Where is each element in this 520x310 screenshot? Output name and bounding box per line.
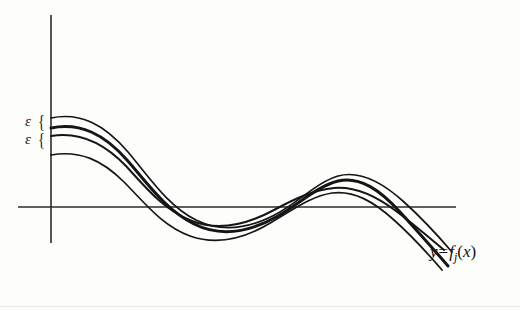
curve-limit-thick bbox=[51, 126, 448, 266]
curve-outer-lower bbox=[51, 154, 442, 270]
scan-artifact bbox=[0, 306, 520, 307]
curve-inner bbox=[51, 135, 444, 250]
function-curve-label: y=fj(x) bbox=[430, 242, 476, 265]
figure-canvas: ε { ε { y=fj(x) bbox=[0, 0, 520, 310]
label-close-paren: ) bbox=[470, 242, 476, 261]
label-equals: = bbox=[438, 242, 450, 261]
epsilon-lower-brace-icon: { bbox=[38, 130, 45, 149]
epsilon-upper-label: ε bbox=[25, 114, 31, 129]
epsilon-lower-label: ε bbox=[25, 132, 31, 147]
curve-outer-upper bbox=[51, 116, 452, 252]
label-y: y bbox=[430, 242, 438, 261]
